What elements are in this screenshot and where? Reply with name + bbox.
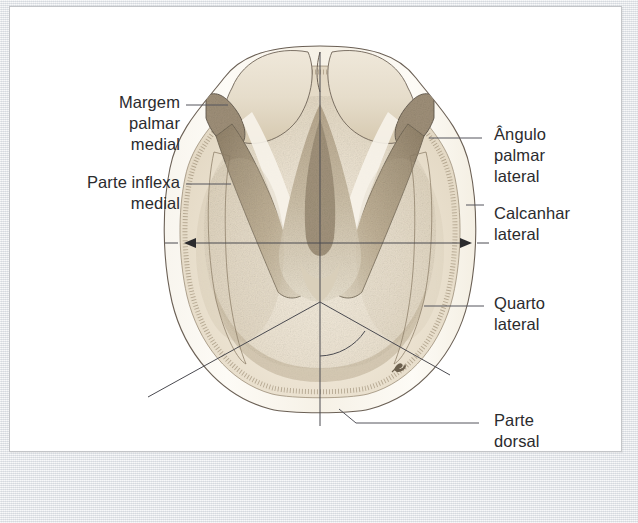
label-calcanhar-lateral: Calcanhar lateral (494, 203, 624, 245)
label-parte-dorsal: Parte dorsal (494, 410, 624, 452)
label-quarto-lateral: Quarto lateral (494, 293, 624, 335)
label-parte-inflexa-medial: Parte inflexa medial (28, 172, 180, 214)
label-margem-palmar-medial: Margem palmar medial (60, 92, 180, 155)
label-angulo-palmar-lateral: Ângulo palmar lateral (494, 124, 624, 187)
